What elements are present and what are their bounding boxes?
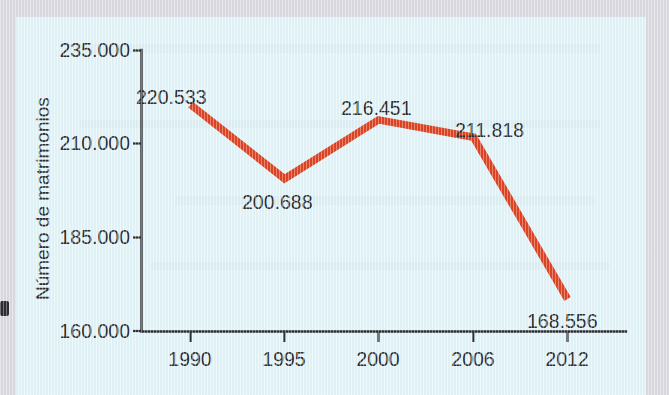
- x-tick-label-2006: 2006: [451, 348, 494, 370]
- page-canvas: Número de matrimonios 235.000 210.000 18…: [0, 0, 669, 395]
- line-chart: Número de matrimonios 235.000 210.000 18…: [0, 0, 669, 395]
- x-tick-label-2000: 2000: [356, 348, 400, 370]
- x-tick-label-1990: 1990: [168, 348, 212, 370]
- y-tick-label-185000: 185.000: [60, 226, 131, 248]
- data-label-2012: 168.556: [527, 310, 598, 332]
- x-tick-label-1995: 1995: [262, 348, 306, 370]
- y-tick-label-210000: 210.000: [60, 132, 131, 154]
- y-tick-label-160000: 160.000: [60, 320, 131, 342]
- data-label-2006: 211.818: [455, 119, 524, 141]
- data-label-2000: 216.451: [341, 97, 412, 119]
- y-axis-title: Número de matrimonios: [32, 97, 53, 300]
- y-tick-label-235000: 235.000: [60, 39, 131, 61]
- data-label-1995: 200.688: [242, 191, 313, 213]
- x-tick-label-2012: 2012: [545, 348, 588, 370]
- data-label-1990: 220.533: [136, 86, 207, 108]
